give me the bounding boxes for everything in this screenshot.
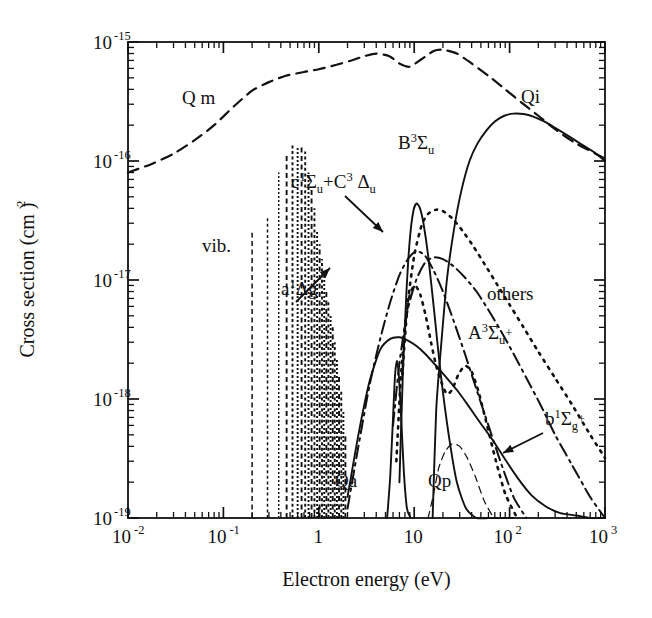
x-tick-exponent: 3 bbox=[611, 523, 617, 537]
y-axis-title-text: Cross section (cm ) bbox=[16, 203, 39, 358]
x-tick-exponent: 2 bbox=[516, 523, 522, 537]
x-tick-mantissa: 10 bbox=[589, 526, 608, 547]
x-tick-mantissa: 10 bbox=[494, 526, 513, 547]
base-text: Σ bbox=[561, 408, 572, 429]
x-tick-exponent: -1 bbox=[229, 523, 239, 537]
x-tick-mantissa: 10 bbox=[112, 526, 131, 547]
base-text: b bbox=[545, 408, 555, 429]
y-tick-exponent: -15 bbox=[114, 29, 131, 43]
y-tick-exponent: -16 bbox=[114, 148, 131, 162]
superscript: + bbox=[578, 412, 585, 426]
base-text: c bbox=[291, 171, 299, 192]
x-tick-exponent: -2 bbox=[134, 523, 144, 537]
base-text: Σ bbox=[488, 322, 499, 343]
figure-root: 10-210-1110102103 10-1510-1610-1710-1810… bbox=[0, 0, 652, 618]
base-text: Σ bbox=[417, 132, 428, 153]
subscript: u bbox=[428, 143, 435, 157]
x-tick-mantissa: 10 bbox=[404, 526, 423, 547]
qi-label: Qi bbox=[521, 86, 540, 107]
a1deltag-label: a1Δg bbox=[281, 277, 318, 299]
base-text: Σ bbox=[306, 171, 317, 192]
x-tick-label: 1 bbox=[314, 526, 324, 547]
qa-label: Qa bbox=[335, 470, 358, 491]
y-tick-exponent: -18 bbox=[114, 386, 131, 400]
base-text: others bbox=[487, 283, 533, 304]
base-text: Q m bbox=[182, 87, 215, 108]
others-label: others bbox=[487, 283, 533, 304]
base-text: Qi bbox=[521, 86, 540, 107]
y-tick-exponent: -19 bbox=[114, 505, 131, 519]
y-axis-title-exponent: 2 bbox=[14, 201, 28, 207]
base-text: Qp bbox=[428, 470, 451, 491]
subscript: u bbox=[370, 182, 377, 196]
base-text: B bbox=[398, 132, 411, 153]
qm-label: Q m bbox=[182, 87, 215, 108]
qp-label: Qp bbox=[428, 470, 451, 491]
y-tick-mantissa: 10 bbox=[93, 151, 112, 172]
x-axis-title: Electron energy (eV) bbox=[282, 568, 450, 591]
base-text: Δg bbox=[296, 278, 318, 299]
x-tick-label: 10 bbox=[404, 526, 423, 547]
cross-section-chart: 10-210-1110102103 10-1510-1610-1710-1810… bbox=[0, 0, 652, 618]
x-tick-mantissa: 10 bbox=[207, 526, 226, 547]
base-text: A bbox=[468, 322, 482, 343]
y-tick-exponent: -17 bbox=[114, 267, 131, 281]
base-text: Qa bbox=[335, 470, 358, 491]
y-tick-mantissa: 10 bbox=[93, 508, 112, 529]
base-text: vib. bbox=[202, 235, 231, 256]
base-text: +C bbox=[323, 171, 346, 192]
y-axis-title: Cross section (cm )2 bbox=[14, 201, 39, 358]
superscript: + bbox=[505, 326, 512, 340]
y-tick-mantissa: 10 bbox=[93, 389, 112, 410]
y-tick-mantissa: 10 bbox=[93, 32, 112, 53]
x-tick-mantissa: 1 bbox=[314, 526, 324, 547]
base-text: Δ bbox=[353, 171, 370, 192]
vib-label: vib. bbox=[202, 235, 231, 256]
y-tick-mantissa: 10 bbox=[93, 270, 112, 291]
